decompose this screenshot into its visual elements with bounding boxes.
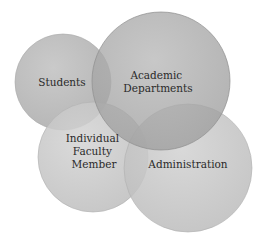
venn-diagram: Students Individual Faculty Member Admin… [0, 0, 269, 240]
label-students: Students [38, 76, 85, 88]
label-academic-departments: Academic Departments [123, 69, 192, 94]
label-individual-faculty-member: Individual Faculty Member [66, 132, 123, 170]
label-administration: Administration [147, 158, 228, 170]
circle-academic-departments [92, 12, 230, 150]
